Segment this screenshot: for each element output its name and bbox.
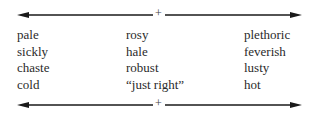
- term-robust: robust: [126, 60, 184, 77]
- term-sickly: sickly: [17, 44, 49, 61]
- bottom-center-plus-label: +: [155, 96, 162, 111]
- term-plethoric: plethoric: [244, 27, 290, 44]
- top-double-arrow-axis: +: [0, 8, 319, 22]
- bottom-double-arrow-axis: +: [0, 98, 319, 112]
- term-feverish: feverish: [244, 44, 290, 61]
- term-just-right: “just right”: [126, 77, 184, 94]
- term-chaste: chaste: [17, 60, 49, 77]
- column-excess: plethoric feverish lusty hot: [244, 27, 290, 94]
- column-deficient: pale sickly chaste cold: [17, 27, 49, 94]
- term-hale: hale: [126, 44, 184, 61]
- column-balanced: rosy hale robust “just right”: [126, 27, 184, 94]
- term-hot: hot: [244, 77, 290, 94]
- top-center-plus-label: +: [155, 6, 162, 21]
- term-pale: pale: [17, 27, 49, 44]
- term-cold: cold: [17, 77, 49, 94]
- term-lusty: lusty: [244, 60, 290, 77]
- term-rosy: rosy: [126, 27, 184, 44]
